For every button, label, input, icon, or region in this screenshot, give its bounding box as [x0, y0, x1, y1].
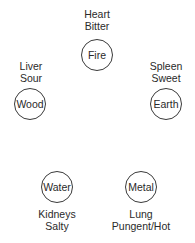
wood-organ-label: Liver [0, 60, 71, 72]
wood-circle: Wood [14, 88, 46, 120]
earth-element-label: Earth [153, 98, 178, 110]
fire-organ-label: Heart [57, 8, 137, 20]
metal-labels: Lung Pungent/Hot [101, 208, 181, 232]
metal-element-label: Metal [128, 181, 154, 193]
fire-element-label: Fire [88, 49, 106, 61]
wood-taste-label: Sour [0, 72, 71, 84]
water-circle: Water [41, 171, 73, 203]
fire-taste-label: Bitter [57, 20, 137, 32]
earth-taste-label: Sweet [126, 72, 195, 84]
water-element-label: Water [43, 181, 71, 193]
fire-circle: Fire [81, 39, 113, 71]
water-organ-label: Kidneys [17, 208, 97, 220]
metal-taste-label: Pungent/Hot [101, 220, 181, 232]
earth-circle: Earth [150, 88, 182, 120]
earth-labels: Spleen Sweet [126, 60, 195, 84]
water-labels: Kidneys Salty [17, 208, 97, 232]
earth-organ-label: Spleen [126, 60, 195, 72]
wood-element-label: Wood [16, 98, 43, 110]
metal-circle: Metal [125, 171, 157, 203]
fire-labels: Heart Bitter [57, 8, 137, 32]
water-taste-label: Salty [17, 220, 97, 232]
wood-labels: Liver Sour [0, 60, 71, 84]
metal-organ-label: Lung [101, 208, 181, 220]
